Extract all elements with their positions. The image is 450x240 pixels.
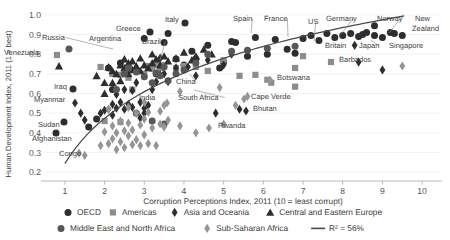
data-point: [347, 30, 354, 37]
data-point: [141, 73, 148, 80]
x-tick-label: 9: [380, 186, 385, 196]
data-point: [153, 141, 159, 150]
annotation-label: Japan: [359, 41, 379, 50]
legend-label: Sub-Saharan Africa: [216, 223, 288, 233]
legend-item-americas[interactable]: Americas: [110, 207, 157, 217]
data-point: [98, 141, 104, 150]
legend-label: OECD: [77, 207, 101, 217]
x-tick-label: 10: [417, 186, 427, 196]
y-tick-label: 0.2: [29, 167, 41, 177]
x-tick-label: 5: [221, 186, 226, 196]
data-point: [114, 128, 120, 137]
data-point: [113, 86, 120, 93]
highlighted-data-point: [66, 46, 73, 53]
data-point: [252, 72, 258, 78]
data-point: [292, 43, 299, 50]
highlighted-data-point: [54, 52, 60, 58]
legend-item-middle-east-and-north-africa[interactable]: Middle East and North Africa: [58, 223, 176, 233]
annotation-label: Botswana: [277, 73, 311, 82]
data-point: [129, 140, 135, 149]
x-axis-title: Corruption Perceptions Index, 2011 (10 =…: [143, 197, 343, 206]
data-point: [161, 63, 168, 70]
y-tick-label: 0.7: [29, 69, 41, 79]
y-tick-label: 0.5: [29, 108, 41, 118]
data-point: [380, 65, 386, 74]
data-point: [292, 65, 298, 71]
diamond-swatch-icon: [172, 208, 178, 217]
annotation-label: Venezuela: [4, 48, 40, 57]
data-point: [177, 121, 183, 130]
highlighted-data-point: [72, 98, 78, 107]
diamond-swatch-icon: [204, 224, 210, 233]
annotation-label: Brazil: [142, 37, 161, 46]
annotation-label: New: [415, 14, 431, 23]
data-point: [108, 79, 116, 86]
data-point: [106, 105, 112, 114]
legend-item-asia-and-oceania[interactable]: Asia and Oceania: [172, 207, 250, 217]
annotation-label: Spain: [233, 14, 252, 23]
annotation-label: Britain: [325, 41, 346, 50]
data-point: [125, 118, 131, 127]
data-point: [141, 114, 147, 123]
data-point: [78, 109, 84, 118]
data-point: [399, 61, 405, 70]
data-point: [228, 48, 235, 55]
data-point: [133, 78, 139, 87]
data-point: [133, 135, 139, 144]
highlighted-data-point: [328, 59, 334, 65]
data-point: [122, 143, 128, 152]
legend: OECDAmericasAsia and OceaniaCentral and …: [58, 207, 383, 233]
data-point: [149, 123, 155, 132]
data-point: [315, 37, 322, 44]
legend-label: Middle East and North Africa: [70, 223, 176, 233]
annotation-label: Afghanistan: [32, 134, 72, 143]
y-tick-label: 0.9: [29, 30, 41, 40]
data-point: [97, 64, 103, 70]
data-point: [252, 34, 259, 41]
data-point: [399, 32, 406, 39]
data-point: [371, 32, 378, 39]
y-axis-ticks: 1.00.90.80.70.60.50.40.30.2: [29, 10, 41, 177]
annotation-label: Barbados: [339, 55, 371, 64]
legend-item-oecd[interactable]: OECD: [65, 207, 101, 217]
data-point: [133, 68, 140, 75]
legend-item-sub-saharan-africa[interactable]: Sub-Saharan Africa: [204, 223, 288, 233]
data-point: [122, 85, 128, 94]
data-point: [128, 57, 136, 64]
data-point: [157, 107, 163, 116]
data-point: [110, 134, 116, 143]
data-point: [284, 46, 291, 53]
annotation-label: Italy: [165, 15, 179, 24]
data-point: [118, 137, 124, 146]
legend-label: R² = 56%: [329, 223, 364, 233]
circle-swatch-icon: [65, 209, 72, 216]
highlighted-data-point: [206, 123, 212, 132]
data-point: [352, 41, 358, 50]
annotation-label: Rwanda: [218, 121, 246, 130]
annotation-label: Zealand: [412, 24, 439, 33]
x-tick-label: 8: [340, 186, 345, 196]
legend-item-central-and-eastern-europe[interactable]: Central and Eastern Europe: [266, 207, 382, 217]
y-tick-label: 0.3: [29, 148, 41, 158]
data-point: [193, 128, 199, 137]
highlighted-data-point: [243, 106, 249, 115]
data-point: [141, 130, 147, 139]
annotation-label: Greece: [116, 24, 141, 33]
data-point: [292, 84, 298, 90]
data-point: [93, 116, 100, 123]
data-point: [149, 79, 156, 86]
data-point: [188, 48, 195, 55]
data-point: [204, 51, 211, 58]
legend-item-r-56-[interactable]: R² = 56%: [311, 223, 364, 233]
annotation-label: India: [139, 93, 156, 102]
data-point: [391, 30, 398, 37]
data-point: [300, 53, 306, 59]
scatter-chart: 1.00.90.80.70.60.50.40.30.2Human Develop…: [0, 0, 450, 240]
legend-label: Asia and Oceania: [184, 207, 250, 217]
x-tick-label: 4: [182, 186, 187, 196]
data-point: [82, 115, 88, 124]
square-swatch-icon: [110, 209, 116, 215]
annotation-label: Sudan: [38, 120, 60, 129]
annotation-label: France: [264, 14, 287, 23]
data-point: [217, 83, 223, 92]
